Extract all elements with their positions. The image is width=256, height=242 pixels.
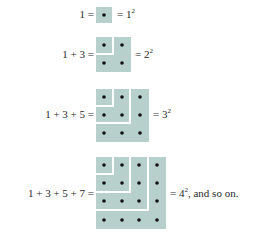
sum-expression: 1 = bbox=[80, 8, 94, 20]
sum-expression: 1 + 3 + 5 = bbox=[45, 108, 94, 120]
square-result: = 42, and so on. bbox=[170, 187, 238, 199]
dot-square-2x2 bbox=[96, 37, 131, 72]
square-result: = 32 bbox=[153, 108, 171, 120]
square-result: = 12 bbox=[117, 8, 135, 20]
sum-expression: 1 + 3 = bbox=[62, 48, 94, 60]
dot-square-4x4 bbox=[96, 157, 166, 229]
sum-expression: 1 + 3 + 5 + 7 = bbox=[28, 187, 94, 199]
square-result: = 22 bbox=[135, 48, 153, 60]
dot-square-3x3 bbox=[96, 89, 149, 142]
dot-square-1x1 bbox=[96, 7, 112, 23]
dot-grid bbox=[96, 7, 112, 23]
dot-grid bbox=[96, 37, 131, 72]
dot-grid bbox=[96, 157, 166, 229]
dot-grid bbox=[96, 89, 149, 142]
